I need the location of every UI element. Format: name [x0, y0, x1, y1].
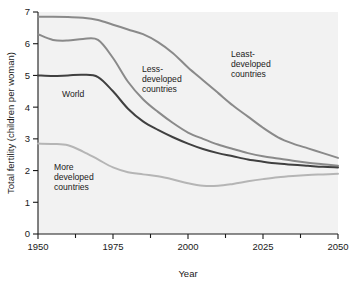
- y-tick-label-4: 4: [25, 102, 30, 113]
- x-axis-title: Year: [178, 268, 197, 279]
- x-tick-label-1950: 1950: [27, 241, 48, 252]
- x-tick-label-group: 19501975200020252050: [27, 241, 348, 252]
- y-tick-label-0: 0: [25, 228, 30, 239]
- y-tick-label-2: 2: [25, 165, 30, 176]
- y-axis-title: Total fertility (children per woman): [5, 52, 16, 194]
- x-tick-label-2025: 2025: [252, 241, 273, 252]
- x-tick-label-1975: 1975: [102, 241, 123, 252]
- y-tick-label-1: 1: [25, 197, 30, 208]
- y-tick-label-5: 5: [25, 70, 30, 81]
- y-tick-label-7: 7: [25, 6, 30, 17]
- fertility-chart-figure: 01234567 19501975200020252050 Least-deve…: [0, 0, 358, 288]
- y-tick-label-3: 3: [25, 133, 30, 144]
- y-tick-label-6: 6: [25, 38, 30, 49]
- chart-svg: 01234567 19501975200020252050 Least-deve…: [0, 0, 358, 288]
- x-axis-tick-group: [38, 234, 338, 239]
- x-tick-label-2000: 2000: [177, 241, 198, 252]
- x-tick-label-2050: 2050: [327, 241, 348, 252]
- plot-background: [38, 12, 338, 234]
- series-annotation-world: World: [62, 89, 85, 99]
- y-axis-tick-group: [33, 12, 38, 234]
- y-tick-label-group: 01234567: [25, 6, 30, 239]
